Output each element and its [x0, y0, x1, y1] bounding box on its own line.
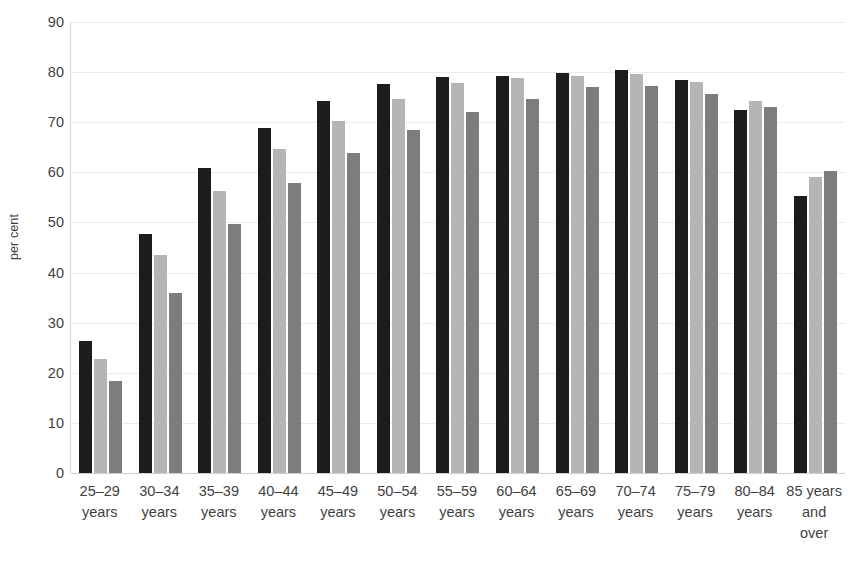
x-axis-tick-label: 65–69 years [546, 481, 606, 544]
bar [436, 77, 449, 473]
bar [496, 76, 509, 473]
x-axis-tick-label: 80–84 years [725, 481, 785, 544]
bar [392, 99, 405, 473]
y-axis-tick-label: 50 [48, 215, 64, 230]
x-axis-tick-label: 30–34 years [130, 481, 190, 544]
x-axis-tick-label: 70–74 years [606, 481, 666, 544]
bar [109, 381, 122, 473]
x-axis-tick-label: 75–79 years [665, 481, 725, 544]
bar [347, 153, 360, 473]
bar [556, 73, 569, 473]
bar [169, 293, 182, 473]
y-axis-tick-label: 0 [56, 466, 64, 481]
bar-chart: per cent 9080706050403020100 25–29 years… [0, 0, 858, 571]
y-axis-tick-label: 20 [48, 366, 64, 381]
x-axis-tick-label: 45–49 years [308, 481, 368, 544]
bar [466, 112, 479, 473]
bar-group [607, 22, 667, 473]
bar [764, 107, 777, 473]
x-axis-tick-label: 40–44 years [249, 481, 309, 544]
bar [645, 86, 658, 473]
bar [377, 84, 390, 473]
y-axis-tick-label: 60 [48, 165, 64, 180]
x-axis-tick-label: 55–59 years [427, 481, 487, 544]
bar [630, 74, 643, 473]
x-axis-tick-label: 25–29 years [70, 481, 130, 544]
bar [586, 87, 599, 473]
y-axis-title: per cent [4, 0, 24, 473]
bar [511, 78, 524, 473]
x-axis-tick-label: 35–39 years [189, 481, 249, 544]
bar [749, 101, 762, 473]
bar [79, 341, 92, 473]
bar-group [666, 22, 726, 473]
bar [94, 359, 107, 473]
bar-group [190, 22, 250, 473]
bar-group [726, 22, 786, 473]
plot-area [70, 22, 845, 473]
bar-group [428, 22, 488, 473]
axis-baseline [71, 473, 845, 474]
y-axis-tick-label: 90 [48, 15, 64, 30]
bar-group [309, 22, 369, 473]
bar [139, 234, 152, 473]
bar [154, 255, 167, 473]
y-axis-tick-label: 40 [48, 265, 64, 280]
y-axis-tick-label: 70 [48, 115, 64, 130]
bar [451, 83, 464, 473]
bar-group [488, 22, 548, 473]
x-axis-tick-labels: 25–29 years30–34 years35–39 years40–44 y… [70, 481, 844, 544]
y-axis-tick-label: 30 [48, 315, 64, 330]
bar [407, 130, 420, 473]
bar [288, 183, 301, 473]
x-axis-tick-label: 85 years and over [784, 481, 844, 544]
bar [794, 196, 807, 473]
bar [228, 224, 241, 473]
x-axis-tick-label: 50–54 years [368, 481, 428, 544]
y-axis-tick-label: 80 [48, 65, 64, 80]
bar [809, 177, 822, 473]
bar [734, 110, 747, 473]
bar [705, 94, 718, 473]
bar [258, 128, 271, 473]
y-axis-tick-labels: 9080706050403020100 [24, 0, 64, 473]
bar [571, 76, 584, 473]
bar-group [369, 22, 429, 473]
bar-group [71, 22, 131, 473]
bar [213, 191, 226, 473]
bar [332, 121, 345, 473]
y-axis-title-label: per cent [7, 214, 21, 260]
bar [824, 171, 837, 473]
bar-group [785, 22, 845, 473]
y-axis-tick-label: 10 [48, 416, 64, 431]
bar-group [131, 22, 191, 473]
bar [615, 70, 628, 473]
bar-group [250, 22, 310, 473]
x-axis-tick-label: 60–64 years [487, 481, 547, 544]
bar [317, 101, 330, 473]
bar [690, 82, 703, 473]
bar [198, 168, 211, 473]
bar [526, 99, 539, 473]
bar-groups [71, 22, 845, 473]
bar [675, 80, 688, 473]
bar [273, 149, 286, 473]
bar-group [547, 22, 607, 473]
